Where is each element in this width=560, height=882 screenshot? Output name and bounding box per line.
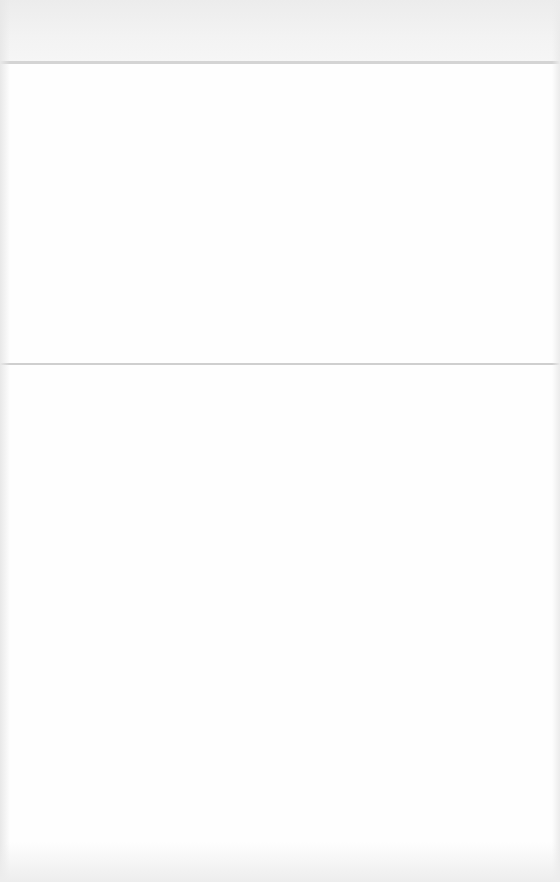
header-bar: [0, 0, 560, 62]
upper-panel: [0, 64, 560, 363]
window-frame: [0, 0, 560, 882]
lower-panel: [0, 365, 560, 882]
